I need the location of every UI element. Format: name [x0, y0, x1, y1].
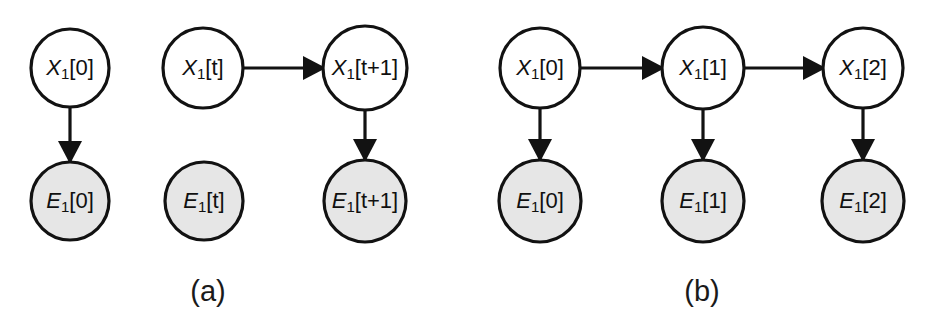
panel-caption-a: (a) — [190, 275, 225, 307]
node-b-e2: E1[2] — [822, 160, 904, 242]
dynamic-bayesian-network-figure: X1[0]E1[0]X1[t]E1[t]X1[t+1]E1[t+1]X1[0]X… — [0, 0, 932, 328]
figure-canvas: X1[0]E1[0]X1[t]E1[t]X1[t+1]E1[t+1]X1[0]X… — [0, 0, 932, 328]
captions-layer: (a)(b) — [190, 275, 719, 307]
node-b-e0: E1[0] — [499, 160, 581, 242]
node-b-x0: X1[0] — [500, 28, 580, 108]
node-a-e0: E1[0] — [31, 162, 109, 240]
node-a-et: E1[t] — [165, 162, 243, 240]
edge-b-edge-x1-e1 — [691, 109, 715, 162]
node-label: E1[2] — [839, 188, 887, 215]
node-b-x2: X1[2] — [823, 28, 903, 108]
node-label: X1[0] — [45, 55, 94, 82]
node-label: X1[t+1] — [331, 55, 398, 82]
node-label: X1[2] — [838, 55, 887, 82]
node-label: E1[t+1] — [332, 188, 398, 215]
node-a-xt1: X1[t+1] — [323, 26, 407, 110]
edge-a-edge-xt-xt1 — [243, 56, 326, 80]
edge-a-edge-xt1-et1 — [353, 110, 377, 162]
edge-b-edge-x0-e0 — [528, 108, 552, 162]
nodes-layer: X1[0]E1[0]X1[t]E1[t]X1[t+1]E1[t+1]X1[0]X… — [31, 26, 904, 242]
node-label: E1[0] — [46, 188, 94, 215]
panel-caption-b: (b) — [684, 275, 719, 307]
edge-b-edge-x1-x2 — [744, 56, 826, 80]
node-b-x1: X1[1] — [662, 27, 744, 109]
node-b-e1: E1[1] — [662, 160, 744, 242]
node-a-et1: E1[t+1] — [324, 160, 406, 242]
node-label: E1[1] — [679, 188, 727, 215]
node-label: E1[0] — [516, 188, 564, 215]
node-label: X1[0] — [515, 55, 564, 82]
edge-b-edge-x0-x1 — [580, 56, 665, 80]
edge-b-edge-x2-e2 — [851, 108, 875, 162]
node-a-x0: X1[0] — [31, 29, 109, 107]
node-label: X1[1] — [678, 55, 727, 82]
edge-a-edge-x0-e0 — [58, 107, 82, 164]
node-a-xt: X1[t] — [163, 28, 243, 108]
